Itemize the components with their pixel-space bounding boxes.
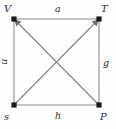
vertex-label-s: s [4,112,9,122]
vertex-label-t: T [101,4,108,14]
vertex-dot-t [96,16,101,21]
vertex-dot-p [96,102,101,107]
graph-figure: V T s P a u g h [0,0,116,129]
vertex-label-v: V [4,4,11,14]
vertex-label-p: P [100,112,107,122]
edge-label-h: h [55,111,61,121]
edge-s-to-t-line [16,23,96,104]
edge-p-to-v-line [18,23,98,104]
edge-label-u: u [0,59,9,65]
vertex-dot-s [11,102,16,107]
vertex-dot-v [11,16,16,21]
diagonal-edges [14,19,98,103]
edge-label-g: g [103,58,109,68]
edge-label-a: a [55,4,61,14]
